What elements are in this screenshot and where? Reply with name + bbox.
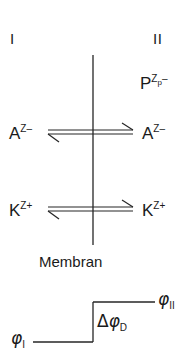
species-A-right-superscript: Z– xyxy=(153,123,165,134)
species-label-K-right: KZ+ xyxy=(142,201,165,219)
phi-II-symbol: φ xyxy=(158,289,169,309)
equilibrium-arrow-K-reverse-head xyxy=(48,211,59,219)
phi-I-subscript: I xyxy=(22,339,25,350)
species-label-P-right: PZp– xyxy=(140,74,167,92)
species-label-A-left: AZ– xyxy=(9,124,32,142)
potential-label-phi-I: φI xyxy=(11,330,25,350)
species-A-left-superscript: Z– xyxy=(20,123,32,134)
equilibrium-arrow-K-forward-head xyxy=(122,200,133,207)
compartment-label-I: I xyxy=(10,31,15,46)
species-K-right-charge-sign: + xyxy=(159,200,165,211)
species-K-right-superscript: Z+ xyxy=(153,200,165,211)
species-label-K-left: KZ+ xyxy=(9,201,32,219)
potential-label-phi-II: φII xyxy=(158,291,175,311)
species-P-superscript: Zp– xyxy=(151,73,167,84)
equilibrium-arrow-K xyxy=(48,200,133,219)
species-K-left-base: K xyxy=(9,201,20,220)
species-A-right-charge-sign: – xyxy=(159,123,165,134)
species-A-right-base: A xyxy=(142,124,153,143)
species-A-left-base: A xyxy=(9,124,20,143)
delta-phi-symbol: φ xyxy=(109,311,120,331)
potential-step-profile xyxy=(33,302,155,342)
compartment-label-II: II xyxy=(153,31,162,46)
phi-I-symbol: φ xyxy=(11,328,22,348)
equilibrium-arrow-A-reverse-head xyxy=(48,134,59,142)
equilibrium-arrow-A xyxy=(48,123,133,142)
potential-label-delta-phi-D: ΔφD xyxy=(97,313,127,333)
species-K-left-charge-sign: + xyxy=(26,200,32,211)
species-A-left-charge-sign: – xyxy=(26,123,32,134)
species-P-charge-sign: – xyxy=(162,73,168,84)
membrane-caption: Membran xyxy=(39,254,102,269)
species-label-A-right: AZ– xyxy=(142,124,165,142)
phi-II-subscript: II xyxy=(169,300,175,311)
equilibrium-arrow-A-forward-head xyxy=(122,123,133,130)
species-K-right-base: K xyxy=(142,201,153,220)
donnan-equilibrium-diagram: I II PZp– AZ– AZ– KZ+ KZ+ Membran φI φII… xyxy=(0,0,188,355)
delta-phi-delta-symbol: Δ xyxy=(97,311,109,331)
delta-phi-subscript: D xyxy=(120,322,127,333)
species-K-left-superscript: Z+ xyxy=(20,200,32,211)
species-P-base: P xyxy=(140,74,151,93)
